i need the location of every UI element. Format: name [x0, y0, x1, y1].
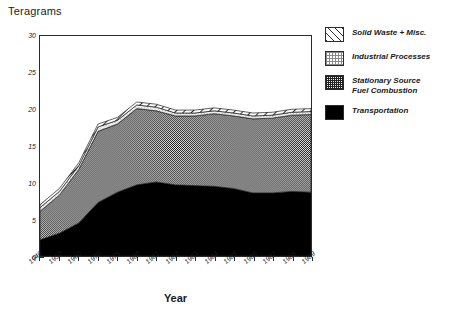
legend-swatch-solid-waste-icon [325, 27, 344, 42]
legend-label-industrial-processes: Industrial Processes [352, 51, 430, 62]
legend-swatch-transportation-icon [325, 105, 344, 120]
legend-item-industrial-processes[interactable]: Industrial Processes [325, 51, 450, 66]
legend-item-solid-waste[interactable]: Solid Waste + Misc. [325, 27, 450, 42]
y-axis-tick-label: 30 [14, 32, 36, 39]
y-axis-title: Teragrams [8, 5, 62, 17]
stacked-area-series [40, 36, 311, 256]
legend-label-transportation: Transportation [352, 105, 408, 116]
chart-figure: Teragrams 051015202530 [0, 0, 452, 314]
y-axis-tick-label: 25 [14, 69, 36, 76]
y-axis-tick-label: 15 [14, 143, 36, 150]
legend-swatch-stationary-source-icon [325, 75, 344, 90]
plot-area [39, 35, 312, 257]
chart-legend: Solid Waste + Misc. Industrial Processes… [325, 27, 450, 129]
x-axis-title: Year [39, 292, 312, 304]
legend-label-solid-waste: Solid Waste + Misc. [352, 27, 426, 38]
legend-swatch-industrial-processes-icon [325, 51, 344, 66]
y-axis-tick-label: 20 [14, 106, 36, 113]
legend-item-transportation[interactable]: Transportation [325, 105, 450, 120]
y-axis-tick-label: 5 [14, 217, 36, 224]
y-axis-tick-label: 10 [14, 180, 36, 187]
y-axis-tick-labels: 051015202530 [10, 35, 36, 257]
legend-item-stationary-source[interactable]: Stationary Source Fuel Combustion [325, 75, 450, 96]
legend-label-stationary-source: Stationary Source Fuel Combustion [352, 75, 420, 96]
